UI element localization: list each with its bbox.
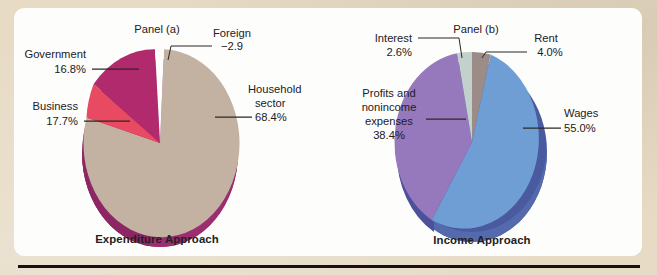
panel-a-expenditure: Panel (a) Foreign −2.9 Government 16.8% … xyxy=(0,0,314,248)
label-wages-name: Wages xyxy=(564,107,599,119)
callout-interest: Interest 2.6% xyxy=(375,32,462,58)
label-profits-line-1: Profits and xyxy=(362,87,415,99)
label-household-name-2: sector xyxy=(255,97,286,109)
label-profits-line-2: nonincome xyxy=(362,101,417,113)
label-foreign-value: −2.9 xyxy=(221,40,243,52)
label-household-name-1: Household xyxy=(248,83,302,95)
panel-a-pie-chart: Panel (a) Foreign −2.9 Government 16.8% … xyxy=(0,0,314,248)
label-government-name: Government xyxy=(24,48,86,60)
label-business-name: Business xyxy=(33,100,79,112)
pie-a-slices xyxy=(84,49,240,237)
label-wages-value: 55.0% xyxy=(564,122,596,134)
panel-a-caption: Expenditure Approach xyxy=(95,233,219,245)
label-business-value: 17.7% xyxy=(46,115,78,127)
panel-b-caption: Income Approach xyxy=(433,234,530,246)
panel-b-income: Panel (b) Interest 2.6% Rent 4.0% Profit… xyxy=(314,0,628,248)
panel-b-pie-chart: Panel (b) Interest 2.6% Rent 4.0% Profit… xyxy=(314,0,628,248)
label-profits-line-3: expenses xyxy=(365,115,413,127)
callout-rent: Rent 4.0% xyxy=(482,32,563,58)
label-profits-value: 38.4% xyxy=(373,129,405,141)
label-household-value: 68.4% xyxy=(255,111,287,123)
panel-b-title: Panel (b) xyxy=(453,23,499,35)
label-rent-name: Rent xyxy=(534,32,559,44)
figure-bottom-rule xyxy=(18,265,640,268)
label-interest-name: Interest xyxy=(375,32,413,44)
label-interest-value: 2.6% xyxy=(387,46,413,58)
label-foreign-name: Foreign xyxy=(213,27,251,39)
label-rent-value: 4.0% xyxy=(537,46,563,58)
panel-a-title: Panel (a) xyxy=(134,23,180,35)
label-government-value: 16.8% xyxy=(54,63,86,75)
